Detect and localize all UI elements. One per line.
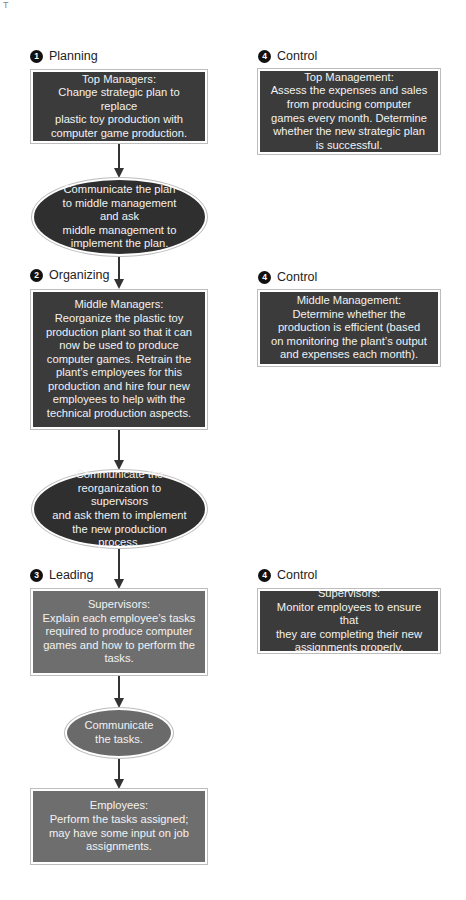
ellipse-communicate-tasks: Communicate the tasks. xyxy=(64,707,174,759)
ellipse-communicate-reorganization: Communicate the reorganization to superv… xyxy=(31,469,208,549)
box-text: Explain each employee’s tasks required t… xyxy=(43,612,196,666)
box-control-content: Middle Management: Determine whether the… xyxy=(260,292,438,364)
box-text: Monitor employees to ensure that they ar… xyxy=(268,601,430,655)
box-control-middle-management: Middle Management: Determine whether the… xyxy=(257,289,441,367)
box-title: Top Management: xyxy=(304,71,394,85)
box-title: Top Managers: xyxy=(82,73,156,87)
heading-label: Control xyxy=(277,270,317,284)
step-number-badge-icon: 4 xyxy=(258,569,271,582)
box-title: Supervisors: xyxy=(88,598,150,612)
box-control-top-management: Top Management: Assess the expenses and … xyxy=(257,68,441,155)
heading-label: Leading xyxy=(49,568,94,582)
box-text: Determine whether the production is effi… xyxy=(271,308,427,362)
box-employees-content: Employees: Perform the tasks assigned; m… xyxy=(33,791,205,862)
arrow-down-icon xyxy=(114,257,124,289)
step-number-badge-icon: 4 xyxy=(258,271,271,284)
box-text: Assess the expenses and sales from produ… xyxy=(271,84,428,152)
step-number-badge-icon: 2 xyxy=(30,269,43,282)
box-employees: Employees: Perform the tasks assigned; m… xyxy=(30,788,208,865)
box-top-managers-content: Top Managers: Change strategic plan to r… xyxy=(33,72,205,141)
heading-label: Control xyxy=(277,49,317,63)
box-supervisors: Supervisors: Explain each employee’s tas… xyxy=(30,588,208,676)
arrow-down-icon xyxy=(114,144,124,178)
box-supervisors-content: Supervisors: Explain each employee’s tas… xyxy=(33,591,205,673)
ellipse-content: Communicate the plan to middle managemen… xyxy=(34,180,205,254)
box-title: Supervisors: xyxy=(318,587,380,601)
heading-organizing: 2 Organizing xyxy=(30,268,109,282)
heading-label: Organizing xyxy=(49,268,109,282)
box-control-content: Supervisors: Monitor employees to ensure… xyxy=(260,591,438,651)
box-top-managers: Top Managers: Change strategic plan to r… xyxy=(30,69,208,144)
ellipse-communicate-plan: Communicate the plan to middle managemen… xyxy=(31,177,208,257)
ellipse-text: Communicate the reorganization to superv… xyxy=(52,468,187,550)
box-middle-managers: Middle Managers: Reorganize the plastic … xyxy=(30,289,208,430)
corner-mark: T xyxy=(3,0,9,10)
box-text: Perform the tasks assigned; may have som… xyxy=(49,813,189,854)
step-number-badge-icon: 1 xyxy=(30,50,43,63)
box-text: Change strategic plan to replace plastic… xyxy=(41,86,197,140)
step-number-badge-icon: 3 xyxy=(30,569,43,582)
box-control-content: Top Management: Assess the expenses and … xyxy=(260,71,438,152)
box-title: Middle Managers: xyxy=(75,298,164,312)
arrow-down-icon xyxy=(114,759,124,789)
step-number-badge-icon: 4 xyxy=(258,50,271,63)
box-text: Reorganize the plastic toy production pl… xyxy=(46,312,192,421)
heading-label: Planning xyxy=(49,49,98,63)
arrow-down-icon xyxy=(114,549,124,589)
box-middle-managers-content: Middle Managers: Reorganize the plastic … xyxy=(33,292,205,427)
heading-control-middle: 4 Control xyxy=(258,270,317,284)
heading-planning: 1 Planning xyxy=(30,49,98,63)
ellipse-content: Communicate the tasks. xyxy=(67,710,171,756)
box-control-supervisors: Supervisors: Monitor employees to ensure… xyxy=(257,588,441,654)
ellipse-text: Communicate the tasks. xyxy=(84,719,153,746)
heading-label: Control xyxy=(277,568,317,582)
arrow-down-icon xyxy=(114,676,124,708)
heading-control-top: 4 Control xyxy=(258,49,317,63)
arrow-down-icon xyxy=(114,430,124,470)
heading-leading: 3 Leading xyxy=(30,568,94,582)
ellipse-content: Communicate the reorganization to superv… xyxy=(34,472,205,546)
box-title: Employees: xyxy=(90,799,148,813)
heading-control-supervisors: 4 Control xyxy=(258,568,317,582)
ellipse-text: Communicate the plan to middle managemen… xyxy=(52,183,187,251)
box-title: Middle Management: xyxy=(297,294,401,308)
